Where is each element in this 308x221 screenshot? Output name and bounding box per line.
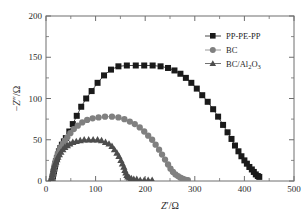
data-point-square (83, 96, 89, 102)
data-point-square (108, 67, 114, 73)
data-point-square (74, 113, 80, 119)
data-point-square (199, 92, 205, 98)
data-point-circle (89, 115, 95, 121)
x-tick-label: 300 (188, 184, 202, 194)
legend: PP-PE-PP BC BC/Al2O3 (205, 31, 261, 70)
x-tick-label: 500 (287, 184, 301, 194)
data-point-square (215, 114, 221, 120)
y-tick-label: 200 (29, 11, 43, 21)
data-point-square (188, 80, 194, 86)
data-point-square (141, 63, 147, 69)
data-point-circle (121, 116, 127, 122)
data-point-square (78, 104, 84, 110)
data-point-square (165, 65, 171, 71)
x-tick-label: 400 (238, 184, 252, 194)
legend-marker-circle-icon (210, 47, 216, 53)
x-axis-title: Z′/Ω (161, 200, 179, 211)
data-point-square (158, 63, 164, 69)
data-point-square (89, 88, 95, 94)
data-point-square (183, 75, 189, 81)
legend-marker-square-icon (210, 33, 216, 39)
data-point-square (95, 80, 101, 86)
y-tick-label: 100 (29, 94, 43, 104)
data-point-square (133, 63, 139, 69)
data-point-square (101, 72, 107, 78)
data-series-group (47, 63, 262, 184)
legend-label-bc: BC (226, 45, 238, 55)
x-tick-labels: 0 100 200 300 400 500 (44, 184, 302, 194)
data-point-circle (95, 114, 101, 120)
data-point-circle (109, 114, 115, 120)
x-tick-label: 200 (138, 184, 152, 194)
data-point-square (225, 129, 231, 135)
legend-label-bc-al2o3: BC/Al2O3 (226, 59, 261, 70)
series-bc (48, 114, 191, 184)
data-point-square (256, 174, 262, 180)
y-tick-label: 50 (33, 135, 43, 145)
y-axis-title-unit: /Ω (11, 86, 22, 96)
data-point-circle (115, 114, 121, 120)
y-tick-labels: 0 50 100 150 200 (29, 11, 43, 186)
legend-item-pp-pe-pp[interactable]: PP-PE-PP (205, 31, 261, 41)
data-point-circle (102, 114, 108, 120)
x-tick-label: 100 (89, 184, 103, 194)
data-point-square (229, 136, 235, 142)
data-point-square (194, 86, 200, 92)
data-point-square (124, 63, 130, 69)
legend-item-bc[interactable]: BC (205, 45, 238, 55)
data-point-square (220, 122, 226, 128)
data-point-square (177, 71, 183, 77)
x-tick-label: 0 (44, 184, 49, 194)
data-point-square (115, 63, 121, 69)
data-point-square (150, 63, 156, 69)
data-point-square (171, 67, 177, 73)
nyquist-plot-figure: 0 100 200 300 400 500 0 50 100 150 200 Z… (0, 0, 308, 221)
y-tick-label: 150 (29, 52, 43, 62)
data-point-square (210, 106, 216, 112)
y-axis-title: −Z″/Ω (11, 86, 22, 112)
data-point-circle (185, 177, 191, 183)
data-point-circle (84, 117, 90, 123)
legend-label-bc-al2o3-prefix: BC/Al (226, 59, 249, 69)
legend-label-bc-al2o3-sub2: 3 (258, 63, 261, 70)
legend-item-bc-al2o3[interactable]: BC/Al2O3 (205, 59, 261, 70)
y-tick-label: 0 (38, 176, 43, 186)
x-axis-title-unit: /Ω (169, 200, 179, 211)
data-point-square (232, 143, 238, 149)
data-point-square (205, 99, 211, 105)
legend-label-pp-pe-pp: PP-PE-PP (226, 31, 261, 41)
